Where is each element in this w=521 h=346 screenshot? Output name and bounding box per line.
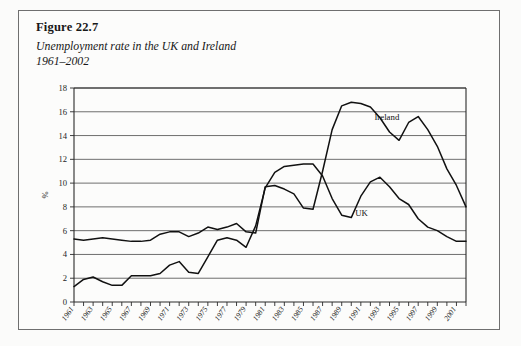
x-tick-label: 2001 <box>442 305 458 323</box>
y-axis-title: % <box>40 191 50 198</box>
axes-group <box>74 88 466 302</box>
x-tick-label: 1971 <box>155 305 171 323</box>
x-tick-label: 1965 <box>98 305 114 323</box>
y-tick-label: 8 <box>63 202 67 212</box>
x-tick-label: 1985 <box>289 305 305 323</box>
y-tick-label: 4 <box>63 249 68 259</box>
y-tick-label: 12 <box>58 154 67 164</box>
x-tick-label: 1961 <box>60 305 76 323</box>
y-axis-ticks-group: 024681012141618 <box>58 83 74 307</box>
chart-plot-area: 024681012141618 196119631965196719691971… <box>0 0 521 346</box>
x-tick-label: 1995 <box>385 305 401 323</box>
y-tick-label: 16 <box>58 107 67 117</box>
x-axis-ticks-group: 1961196319651967196919711973197519771979… <box>60 302 466 323</box>
figure-page: Figure 22.7 Unemployment rate in the UK … <box>0 0 521 346</box>
x-tick-label: 1963 <box>79 305 95 323</box>
x-tick-label: 1983 <box>270 305 286 323</box>
y-tick-label: 18 <box>58 83 67 93</box>
series-annotations-group: IrelandUK <box>355 112 400 218</box>
series-annotation-ireland: Ireland <box>374 112 400 122</box>
x-tick-label: 1967 <box>117 304 134 323</box>
x-tick-label: 1977 <box>213 304 230 323</box>
data-series-group <box>74 102 466 286</box>
gridlines-group <box>74 88 466 278</box>
x-tick-label: 1973 <box>174 305 190 323</box>
x-tick-label: 1989 <box>327 305 343 323</box>
series-annotation-uk: UK <box>355 208 368 218</box>
y-tick-label: 14 <box>58 131 67 141</box>
x-tick-label: 1999 <box>423 305 439 323</box>
line-chart-svg: 024681012141618 196119631965196719691971… <box>0 0 521 346</box>
x-tick-label: 1987 <box>308 304 325 323</box>
y-tick-label: 2 <box>63 273 67 283</box>
series-line-uk <box>74 164 466 286</box>
x-tick-label: 1993 <box>366 305 382 323</box>
y-tick-label: 10 <box>58 178 67 188</box>
series-line-ireland <box>74 102 466 241</box>
x-tick-label: 1975 <box>193 305 209 323</box>
x-tick-label: 1991 <box>346 305 362 323</box>
x-tick-label: 1997 <box>404 304 421 323</box>
x-tick-label: 1981 <box>251 305 267 323</box>
y-tick-label: 6 <box>63 226 68 236</box>
y-tick-label: 0 <box>63 297 67 307</box>
x-tick-label: 1969 <box>136 305 152 323</box>
x-tick-label: 1979 <box>232 305 248 323</box>
